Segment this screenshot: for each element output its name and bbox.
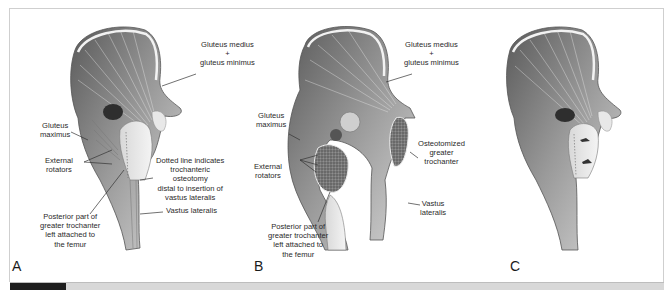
label-osteotomized-trochanter: Osteotomized greater trochanter: [418, 139, 465, 167]
panel-b-illustration: [288, 26, 415, 250]
label-external-rotators-b: External rotators: [254, 162, 282, 180]
label-gluteus-medius-b: Gluteus medius + gluteus minimus: [404, 40, 459, 68]
label-gluteus-maximus-b: Gluteus maximus: [256, 111, 286, 129]
label-vastus-lateralis-b: Vastus lateralis: [420, 199, 446, 217]
panel-letter-a: A: [12, 258, 21, 274]
label-gluteus-maximus-a: Gluteus maximus: [40, 121, 70, 139]
panel-c-illustration: [507, 27, 621, 250]
panel-letter-c: C: [510, 258, 520, 274]
caption-bar: [10, 282, 664, 290]
label-posterior-trochanter-b: Posterior part of greater trochanter lef…: [268, 222, 328, 259]
caption-bar-dark-segment: [10, 283, 66, 290]
label-dotted-line-note: Dotted line indicates trochanteric osteo…: [156, 156, 224, 202]
label-vastus-lateralis-a: Vastus lateralis: [166, 206, 217, 215]
label-posterior-trochanter-a: Posterior part of greater trochanter lef…: [40, 212, 100, 249]
panel-letter-b: B: [254, 258, 263, 274]
label-gluteus-medius-a: Gluteus medius + gluteus minimus: [200, 40, 255, 68]
label-external-rotators-a: External rotators: [45, 156, 73, 174]
